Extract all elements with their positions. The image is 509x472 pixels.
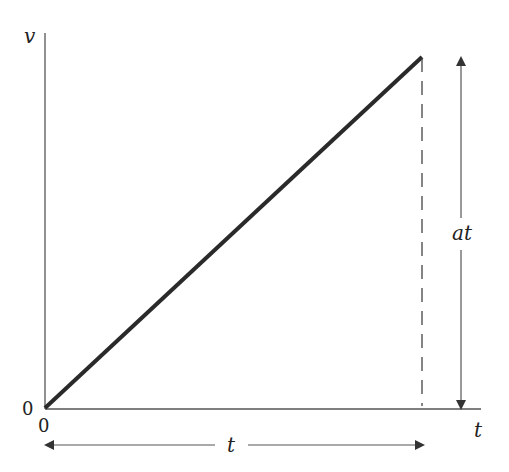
origin-y-label: 0 [22,398,33,419]
y-axis-label: v [24,24,36,48]
origin-x-label: 0 [38,415,49,436]
velocity-line [45,57,422,408]
t-span-label: t [227,433,236,457]
velocity-time-diagram: v 0 0 t at t [0,0,509,472]
x-axis-label: t [474,418,483,442]
at-span-label: at [452,221,473,245]
